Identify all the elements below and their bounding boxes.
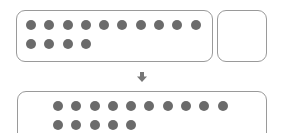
dot	[181, 101, 191, 111]
dot	[81, 20, 91, 30]
down-arrow-icon	[137, 72, 147, 82]
dot	[71, 120, 81, 130]
dot	[53, 120, 63, 130]
dot	[63, 39, 73, 49]
dot	[172, 20, 182, 30]
bottom-dot-box	[17, 91, 267, 133]
dot	[126, 101, 136, 111]
dot	[26, 20, 36, 30]
dot	[218, 101, 228, 111]
dot	[71, 101, 81, 111]
dot	[81, 39, 91, 49]
dot	[44, 20, 54, 30]
dot	[90, 101, 100, 111]
dot	[154, 20, 164, 30]
dot	[163, 101, 173, 111]
dot	[199, 101, 209, 111]
dot	[44, 39, 54, 49]
dot	[108, 120, 118, 130]
dot	[108, 101, 118, 111]
dot	[63, 20, 73, 30]
empty-box	[217, 10, 267, 62]
dot	[136, 20, 146, 30]
top-dots	[26, 20, 216, 58]
dot	[191, 20, 201, 30]
dot	[117, 20, 127, 30]
dot	[90, 120, 100, 130]
dot	[99, 20, 109, 30]
top-dot-box	[16, 10, 213, 62]
bottom-dots	[53, 101, 243, 133]
dot	[53, 101, 63, 111]
dot	[144, 101, 154, 111]
dot	[126, 120, 136, 130]
dot	[26, 39, 36, 49]
